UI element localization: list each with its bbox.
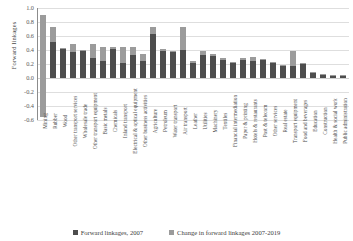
- x-tick-label: Education: [308, 121, 318, 207]
- bar-group: [158, 8, 168, 120]
- bar-segment-2007: [190, 63, 196, 78]
- x-axis-category-labels: MiningRubberWoodOther transport services…: [37, 121, 349, 207]
- bar-segment-2007: [290, 66, 296, 78]
- x-tick-label: Food and beverages: [298, 121, 308, 207]
- bar-segment-change: [340, 75, 346, 76]
- x-tick-label: Utilities: [198, 121, 208, 207]
- bar-segment-change: [130, 47, 136, 55]
- x-tick-label: Machinery: [208, 121, 218, 207]
- bar-group: [48, 8, 58, 120]
- x-tick-label: Petroleum: [158, 121, 168, 207]
- bar-segment-change: [240, 58, 246, 60]
- bar-segment-2007: [120, 63, 126, 78]
- bar-segment-change: [280, 65, 286, 66]
- bar-group: [308, 8, 318, 120]
- bar-segment-2007: [220, 58, 226, 78]
- bar-segment-2007: [270, 63, 276, 78]
- bar-group: [188, 8, 198, 120]
- x-tick-label: Basic metals: [98, 121, 108, 207]
- bar-segment-2007: [80, 50, 86, 78]
- bar-segment-2007: [60, 49, 66, 78]
- x-tick-label: Agriculture: [148, 121, 158, 207]
- bar-group: [58, 8, 68, 120]
- bar-segment-change: [180, 27, 186, 50]
- bar-segment-change: [50, 27, 56, 42]
- bar-group: [178, 8, 188, 120]
- legend-item-forward-linkages-2007: Forward linkages, 2007: [73, 229, 143, 236]
- bar-segment-change: [310, 72, 316, 73]
- x-tick-label: Other business activities: [138, 121, 148, 207]
- bar-segment-2007: [300, 63, 306, 78]
- x-tick-label: Post & telecom: [258, 121, 268, 207]
- y-tick-label: 0.2: [10, 61, 34, 67]
- bar-segment-change: [90, 44, 96, 57]
- forward-linkages-chart: Forward linkages 1.00.80.60.40.20.0-0.2-…: [0, 0, 353, 241]
- bar-segment-change: [170, 51, 176, 52]
- bar-group: [218, 8, 228, 120]
- bar-segment-change: [330, 75, 336, 76]
- bar-segment-change: [150, 27, 156, 34]
- x-tick-label: Wood: [58, 121, 68, 207]
- bar-segment-2007: [200, 55, 206, 78]
- x-tick-label: Electrical & optical equipment: [128, 121, 138, 207]
- x-tick-label: Water transport: [168, 121, 178, 207]
- x-tick-label: Other transport equipment: [88, 121, 98, 207]
- bar-segment-change: [250, 57, 256, 61]
- y-tick-label: 0.4: [10, 47, 34, 53]
- y-tick-label: 1.0: [10, 5, 34, 11]
- bar-segment-2007: [180, 50, 186, 78]
- x-tick-label: Inland transport: [118, 121, 128, 207]
- x-tick-label: Public administration: [338, 121, 348, 207]
- x-tick-label: Hotels & restaurants: [248, 121, 258, 207]
- legend-swatch-icon: [169, 230, 174, 235]
- bar-segment-2007: [310, 72, 316, 78]
- y-tick-label: 0.8: [10, 19, 34, 25]
- bar-segment-change: [190, 61, 196, 62]
- bar-segment-change: [60, 48, 66, 49]
- bar-group: [38, 8, 48, 120]
- bar-segment-2007: [150, 34, 156, 78]
- bar-segment-change: [270, 62, 276, 63]
- bar-group: [278, 8, 288, 120]
- bar-segment-2007: [100, 61, 106, 78]
- bar-group: [318, 8, 328, 120]
- bar-segment-change: [120, 47, 126, 63]
- bar-segment-change: [220, 58, 226, 59]
- x-tick-label: Health & social work: [328, 121, 338, 207]
- bar-segment-2007: [230, 62, 236, 78]
- x-tick-label: Leather: [188, 121, 198, 207]
- bar-group: [208, 8, 218, 120]
- bar-segment-2007: [160, 49, 166, 78]
- bar-segment-2007: [140, 61, 146, 78]
- bar-segment-2007: [90, 58, 96, 78]
- bar-segment-change: [200, 51, 206, 55]
- x-tick-label: Real estate: [278, 121, 288, 207]
- x-tick-label: Wholesale trade: [78, 121, 88, 207]
- bar-segment-2007: [110, 49, 116, 78]
- bar-group: [148, 8, 158, 120]
- bar-segment-change: [290, 51, 296, 66]
- x-tick-label: Air transport: [178, 121, 188, 207]
- chart-legend: Forward linkages, 2007 Change in forward…: [0, 229, 353, 236]
- bar-group: [258, 8, 268, 120]
- bar-segment-change: [210, 54, 216, 56]
- bar-segment-change: [230, 62, 236, 63]
- bar-segment-change: [300, 63, 306, 64]
- y-tick-label: 0.6: [10, 33, 34, 39]
- bar-segment-change: [70, 44, 76, 52]
- bar-segment-2007: [50, 42, 56, 78]
- bar-segment-2007: [330, 75, 336, 79]
- x-tick-label: Financial intermediation: [228, 121, 238, 207]
- legend-swatch-icon: [73, 230, 78, 235]
- bar-group: [98, 8, 108, 120]
- bar-group: [198, 8, 208, 120]
- y-tick-label: 0.0: [10, 75, 34, 81]
- bar-segment-2007: [240, 58, 246, 78]
- bar-group: [268, 8, 278, 120]
- x-tick-label: Transport equipment: [288, 121, 298, 207]
- x-tick-label: Other services: [268, 121, 278, 207]
- bar-segment-change: [140, 54, 146, 61]
- bar-segment-change: [320, 74, 326, 75]
- bar-group: [108, 8, 118, 120]
- y-tick-label: -0.6: [10, 117, 34, 123]
